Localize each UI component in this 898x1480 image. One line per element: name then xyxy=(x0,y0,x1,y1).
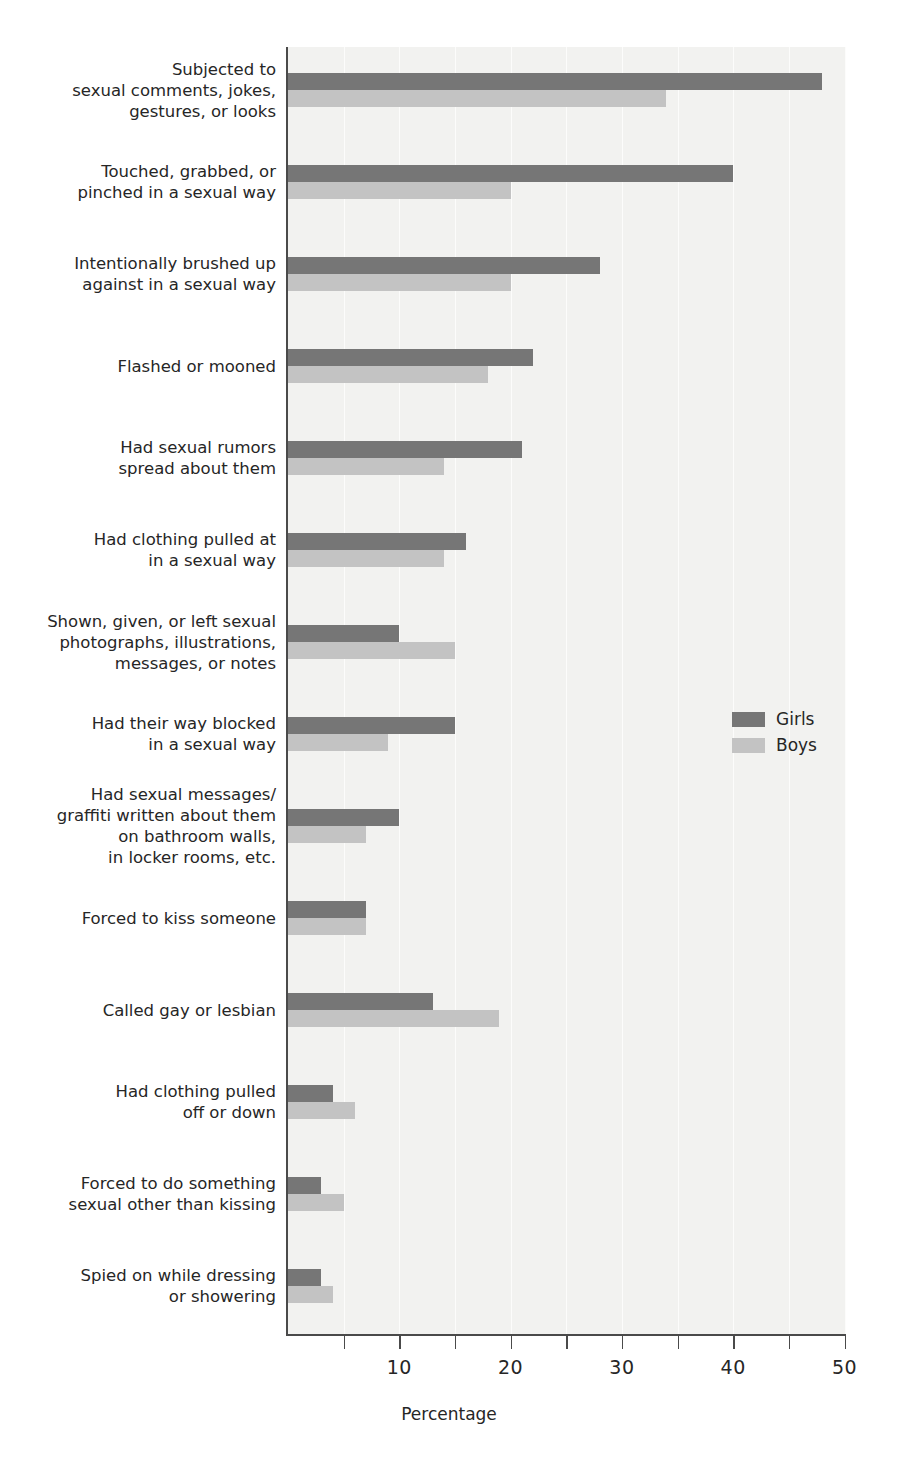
category-label: Flashed or mooned xyxy=(6,356,286,377)
category-label: Touched, grabbed, or pinched in a sexual… xyxy=(6,161,286,203)
bar-row: Had clothing pulled at in a sexual way xyxy=(0,507,898,599)
bar-pair xyxy=(288,73,822,107)
x-tick xyxy=(845,1336,846,1349)
legend-label-girls: Girls xyxy=(776,709,814,729)
bar-pair xyxy=(288,1177,344,1211)
bar-row: Had sexual messages/ graffiti written ab… xyxy=(0,783,898,875)
bar-boys xyxy=(288,90,666,107)
bar-boys xyxy=(288,918,366,935)
bar-boys xyxy=(288,642,455,659)
category-label: Called gay or lesbian xyxy=(6,1000,286,1021)
x-tick xyxy=(511,1336,512,1349)
bar-pair xyxy=(288,993,499,1027)
category-label: Had clothing pulled at in a sexual way xyxy=(6,529,286,571)
x-tick xyxy=(789,1336,790,1349)
legend-item-boys: Boys xyxy=(732,733,817,757)
bar-girls xyxy=(288,349,533,366)
bar-row: Forced to kiss someone xyxy=(0,875,898,967)
x-tick-label: 50 xyxy=(832,1356,857,1378)
x-tick xyxy=(733,1336,734,1349)
bar-girls xyxy=(288,533,466,550)
bar-pair xyxy=(288,441,522,475)
x-tick xyxy=(678,1336,679,1349)
bar-boys xyxy=(288,826,366,843)
bar-boys xyxy=(288,366,488,383)
bar-girls xyxy=(288,717,455,734)
bar-boys xyxy=(288,274,511,291)
bar-pair xyxy=(288,625,455,659)
bar-girls xyxy=(288,165,733,182)
bar-pair xyxy=(288,717,455,751)
category-label: Shown, given, or left sexual photographs… xyxy=(6,611,286,674)
bar-row: Shown, given, or left sexual photographs… xyxy=(0,599,898,691)
bar-row: Forced to do something sexual other than… xyxy=(0,1151,898,1243)
bar-boys xyxy=(288,734,388,751)
bar-girls xyxy=(288,993,433,1010)
legend-item-girls: Girls xyxy=(732,707,817,731)
bar-girls xyxy=(288,625,399,642)
bar-boys xyxy=(288,182,511,199)
bar-pair xyxy=(288,1085,355,1119)
bar-boys xyxy=(288,458,444,475)
x-tick-label: 40 xyxy=(721,1356,746,1378)
bar-boys xyxy=(288,550,444,567)
bar-row: Spied on while dressing or showering xyxy=(0,1243,898,1335)
bar-girls xyxy=(288,1177,321,1194)
category-label: Had their way blocked in a sexual way xyxy=(6,713,286,755)
bar-girls xyxy=(288,73,822,90)
category-label: Had clothing pulled off or down xyxy=(6,1081,286,1123)
x-axis-title: Percentage xyxy=(0,1404,898,1424)
legend-swatch-girls xyxy=(732,712,765,727)
legend-label-boys: Boys xyxy=(776,735,817,755)
bar-row: Had sexual rumors spread about them xyxy=(0,415,898,507)
x-tick xyxy=(622,1336,623,1349)
bar-pair xyxy=(288,349,533,383)
bar-girls xyxy=(288,441,522,458)
category-label: Had sexual messages/ graffiti written ab… xyxy=(6,784,286,868)
chart-legend: Girls Boys xyxy=(732,707,817,759)
x-tick xyxy=(399,1336,400,1349)
category-label: Had sexual rumors spread about them xyxy=(6,437,286,479)
bar-pair xyxy=(288,257,600,291)
category-label: Spied on while dressing or showering xyxy=(6,1265,286,1307)
bar-row: Intentionally brushed up against in a se… xyxy=(0,231,898,323)
bar-row: Called gay or lesbian xyxy=(0,967,898,1059)
horizontal-bar-chart: Subjected to sexual comments, jokes, ges… xyxy=(0,0,898,1480)
category-label: Forced to kiss someone xyxy=(6,908,286,929)
x-tick xyxy=(455,1336,456,1349)
bar-girls xyxy=(288,1269,321,1286)
x-tick-label: 10 xyxy=(387,1356,412,1378)
legend-swatch-boys xyxy=(732,738,765,753)
bar-pair xyxy=(288,901,366,935)
category-label: Subjected to sexual comments, jokes, ges… xyxy=(6,59,286,122)
category-label: Intentionally brushed up against in a se… xyxy=(6,253,286,295)
bar-row: Subjected to sexual comments, jokes, ges… xyxy=(0,47,898,139)
bar-row: Flashed or mooned xyxy=(0,323,898,415)
x-tick xyxy=(566,1336,567,1349)
bar-pair xyxy=(288,1269,333,1303)
bar-row: Touched, grabbed, or pinched in a sexual… xyxy=(0,139,898,231)
bar-girls xyxy=(288,901,366,918)
bar-pair xyxy=(288,533,466,567)
bar-girls xyxy=(288,257,600,274)
bar-boys xyxy=(288,1010,499,1027)
x-tick xyxy=(344,1336,345,1349)
bar-boys xyxy=(288,1102,355,1119)
bar-girls xyxy=(288,1085,333,1102)
x-tick-label: 20 xyxy=(498,1356,523,1378)
category-label: Forced to do something sexual other than… xyxy=(6,1173,286,1215)
x-tick-label: 30 xyxy=(609,1356,634,1378)
bar-girls xyxy=(288,809,399,826)
bar-boys xyxy=(288,1194,344,1211)
bar-pair xyxy=(288,809,399,843)
bar-row: Had clothing pulled off or down xyxy=(0,1059,898,1151)
bar-pair xyxy=(288,165,733,199)
bar-boys xyxy=(288,1286,333,1303)
